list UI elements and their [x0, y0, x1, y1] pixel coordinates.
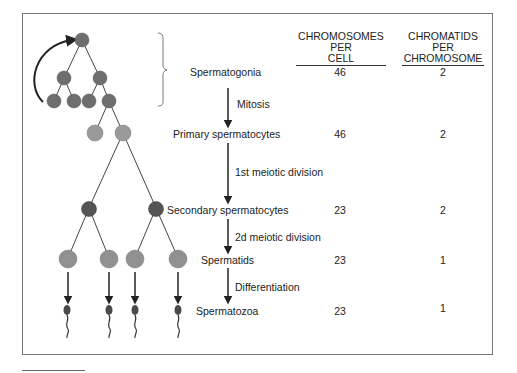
- header-line: CHROMOSOME: [402, 53, 484, 66]
- transition-label-differentiation: Differentiation: [235, 281, 300, 293]
- primary-spermatocyte-cells: [87, 125, 131, 141]
- transition-label-mitosis: Mitosis: [237, 98, 270, 110]
- value-chromosomes-spermatids: 23: [325, 254, 355, 266]
- differentiation-arrows: [68, 272, 178, 300]
- spermatozoa-icons: [64, 305, 182, 338]
- stage-label-primary-spermatocytes: Primary spermatocytes: [173, 128, 280, 140]
- value-chromosomes-primary: 46: [325, 128, 355, 140]
- tree-lines: [54, 40, 178, 258]
- spermatogonia-brace: [158, 33, 167, 106]
- value-chromatids-spermatozoa: 1: [428, 302, 458, 314]
- value-chromatids-secondary: 2: [428, 204, 458, 216]
- value-chromosomes-spermatozoa: 23: [325, 305, 355, 317]
- value-chromatids-primary: 2: [428, 128, 458, 140]
- secondary-spermatocyte-cells: [82, 202, 164, 217]
- transition-label-2d-meiotic: 2d meiotic division: [235, 231, 321, 243]
- value-chromatids-spermatids: 1: [428, 254, 458, 266]
- self-renewal-arrow: [34, 40, 72, 102]
- spermatid-cells: [59, 250, 187, 268]
- header-line: CELL: [296, 53, 386, 66]
- stage-label-spermatogonia: Spermatogonia: [190, 66, 261, 78]
- transition-label-1st-meiotic: 1st meiotic division: [235, 166, 323, 178]
- stage-label-spermatozoa: Spermatozoa: [196, 305, 258, 317]
- header-chromatids-per-chromosome: CHROMATIDS PER CHROMOSOME: [402, 31, 484, 66]
- value-chromosomes-secondary: 23: [325, 204, 355, 216]
- header-chromosomes-per-cell: CHROMOSOMES PER CELL: [296, 31, 386, 66]
- value-chromosomes-spermatogonia: 46: [325, 66, 355, 78]
- stage-label-spermatids: Spermatids: [201, 254, 254, 266]
- value-chromatids-spermatogonia: 2: [428, 66, 458, 78]
- stage-label-secondary-spermatocytes: Secondary spermatocytes: [167, 204, 288, 216]
